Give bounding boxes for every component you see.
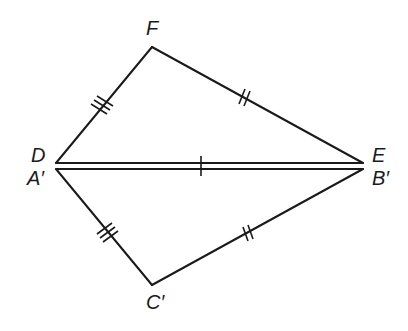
segment-DF	[56, 47, 152, 163]
label-D: D	[31, 144, 45, 166]
label-E: E	[372, 144, 386, 166]
label-A-prime: A′	[26, 167, 45, 189]
segment-A'C'	[56, 169, 152, 285]
label-C-prime: C′	[146, 291, 165, 313]
congruent-triangles-diagram: F D A′ E B′ C′	[0, 0, 408, 331]
label-F: F	[146, 17, 160, 39]
segment-FE	[152, 47, 363, 163]
label-B-prime: B′	[372, 167, 390, 189]
segment-C'B'	[152, 169, 363, 285]
